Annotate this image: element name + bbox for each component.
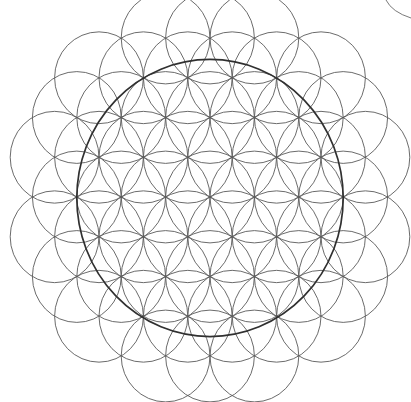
flower-of-life-diagram bbox=[0, 0, 411, 402]
corner-partial-arc bbox=[386, 0, 411, 18]
